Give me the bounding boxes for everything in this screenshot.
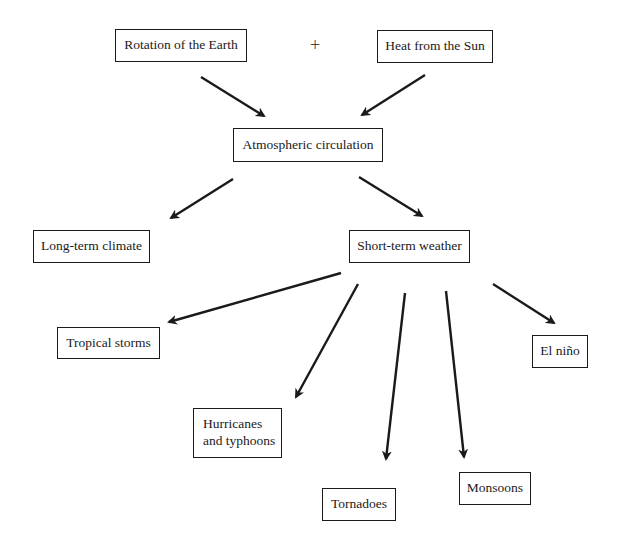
plus-operator: + <box>310 36 320 54</box>
node-label: El niño <box>540 343 579 360</box>
node-label: Atmospheric circulation <box>243 137 374 154</box>
node-el-nino: El niño <box>532 335 588 368</box>
node-label: Tropical storms <box>66 335 151 352</box>
arrow-weather-to-monsoons <box>446 291 464 457</box>
node-label: Short-term weather <box>357 238 462 255</box>
node-label: Long-term climate <box>41 238 142 255</box>
arrow-circulation-to-weather <box>359 177 422 216</box>
arrow-circulation-to-climate <box>171 179 233 218</box>
node-label: Tornadoes <box>331 496 387 513</box>
node-rotation-of-earth: Rotation of the Earth <box>115 29 247 62</box>
node-hurricanes-typhoons: Hurricanes and typhoons <box>193 408 282 458</box>
arrows-layer <box>0 0 618 545</box>
arrow-heat-to-circulation <box>362 75 425 115</box>
node-atmospheric-circulation: Atmospheric circulation <box>233 128 383 162</box>
node-heat-from-sun: Heat from the Sun <box>377 30 493 63</box>
arrow-weather-to-storms <box>169 273 341 322</box>
node-monsoons: Monsoons <box>459 472 531 505</box>
arrow-weather-to-hurricanes <box>296 284 358 397</box>
arrow-weather-to-tornadoes <box>386 293 405 459</box>
node-tropical-storms: Tropical storms <box>57 327 160 359</box>
node-short-term-weather: Short-term weather <box>349 230 470 263</box>
diagram-canvas: Rotation of the Earth + Heat from the Su… <box>0 0 618 545</box>
node-label: Rotation of the Earth <box>124 37 238 54</box>
arrow-weather-to-elnino <box>493 284 554 323</box>
node-label-line2: and typhoons <box>203 433 275 450</box>
arrow-rotation-to-circulation <box>201 77 264 116</box>
node-label: Heat from the Sun <box>385 38 484 55</box>
node-label: Monsoons <box>467 480 523 497</box>
node-label-line1: Hurricanes <box>203 416 275 433</box>
node-tornadoes: Tornadoes <box>322 488 396 521</box>
node-long-term-climate: Long-term climate <box>33 230 150 263</box>
